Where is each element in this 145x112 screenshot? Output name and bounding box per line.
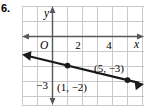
graph-svg: y x O 2 4 −3 (1, −2) (5, −3) <box>22 6 144 106</box>
point-dot-5-neg3 <box>125 77 131 83</box>
point-label-1-neg2: (1, −2) <box>57 81 87 94</box>
exercise-number: 6. <box>1 2 10 14</box>
y-tick-label-neg3: −3 <box>36 79 48 91</box>
exercise-figure: 6. <box>0 0 145 112</box>
point-dot-1-neg2 <box>65 63 71 69</box>
x-tick-label-4: 4 <box>106 39 112 51</box>
point-label-5-neg3: (5, −3) <box>94 62 124 75</box>
origin-label: O <box>40 39 49 51</box>
y-axis-label: y <box>43 7 50 20</box>
x-tick-label-2: 2 <box>75 39 81 51</box>
x-axis-label: x <box>133 38 140 50</box>
coordinate-graph: y x O 2 4 −3 (1, −2) (5, −3) <box>22 6 144 106</box>
